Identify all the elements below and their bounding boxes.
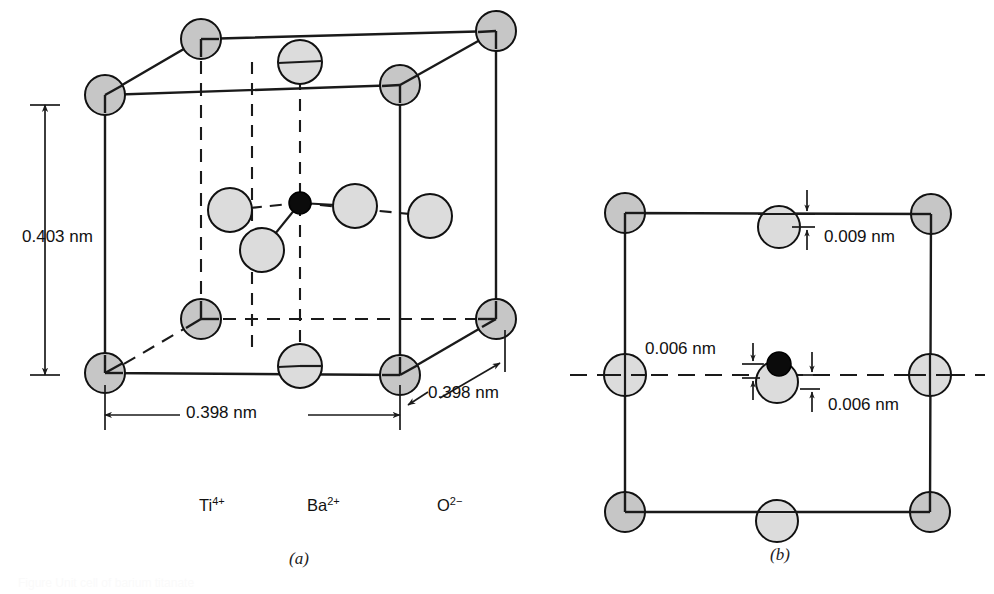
o-ion-right-face (408, 194, 452, 238)
legend-label-titanium: Ti4+ (199, 497, 225, 514)
cell-depth-dimension-label: 0.398 nm (428, 384, 499, 401)
ti-ion-center (767, 352, 791, 376)
panel-b-projection (570, 190, 985, 542)
dim-0006-o (800, 352, 822, 412)
titanium-displacement-label: 0.006 nm (645, 340, 716, 357)
o-ion-back-face (333, 184, 377, 228)
bottom-caption: Figure Unit cell of barium titanate (18, 576, 194, 590)
legend-symbol-ba: Ba (307, 496, 327, 514)
figure-container: 0.403 nm 0.398 nm 0.398 nm 0.009 nm 0.00… (0, 0, 994, 594)
oxygen-top-displacement-label: 0.009 nm (824, 228, 895, 245)
cell-width-dimension-label: 0.398 nm (186, 404, 257, 421)
legend-label-oxygen: O2− (437, 497, 462, 514)
cell-height-dimension-label: 0.403 nm (22, 228, 93, 245)
panel-letter-b: (b) (770, 545, 790, 565)
panel-letter-a: (a) (289, 549, 309, 569)
legend-label-barium: Ba2+ (307, 497, 340, 514)
legend-charge-o: 2− (450, 495, 463, 507)
ti-ion-body-center (289, 192, 311, 214)
legend-charge-ba: 2+ (327, 495, 340, 507)
crystal-structure-drawing (0, 0, 994, 594)
oxygen-side-displacement-label: 0.006 nm (828, 396, 899, 413)
legend-symbol-ti: Ti (199, 496, 212, 514)
o-ion-left-face (208, 188, 252, 232)
panel-a-cube (30, 11, 516, 430)
legend-charge-ti: 4+ (212, 495, 225, 507)
o-ion-bottom (756, 500, 798, 542)
o-ion-front-face (240, 228, 284, 272)
legend-symbol-o: O (437, 496, 450, 514)
